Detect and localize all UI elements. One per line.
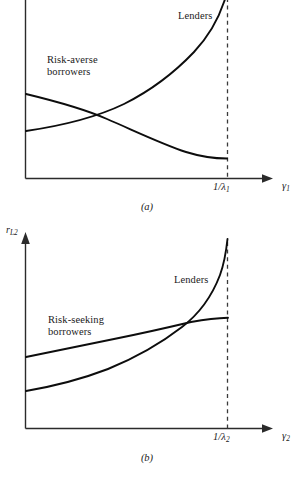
panel-b-x-axis-arrow	[262, 424, 273, 433]
panel-a-chart	[0, 0, 303, 220]
panel-b-x-axis-label: γ2	[282, 430, 290, 444]
panel-b-chart	[0, 220, 303, 477]
panel-a-x-axis-arrow	[262, 174, 273, 183]
panel-a-x-tick-sub: 1	[226, 185, 230, 194]
figure-container: Lenders Risk-averse borrowers 1/λ1 γ1 (a…	[0, 0, 303, 477]
panel-b-x-tick-sub: 2	[226, 435, 230, 444]
panel-b-borrowers-label-line1: Risk-seeking	[48, 314, 104, 326]
panel-b-caption: (b)	[127, 452, 167, 463]
panel-b-y-axis-sub: L2	[10, 228, 18, 237]
panel-b-y-axis-label: rL2	[6, 224, 18, 237]
panel-b-x-tick-label: 1/λ2	[213, 431, 230, 445]
panel-b-y-axis-arrow	[21, 232, 30, 244]
panel-a-x-axis-sub: 1	[286, 184, 290, 193]
panel-b-lenders-label: Lenders	[174, 274, 209, 286]
panel-a-borrowers-label-line1: Risk-averse	[47, 54, 98, 66]
panel-a-borrowers-label-line2: borrowers	[47, 66, 90, 78]
panel-a-caption: (a)	[127, 201, 167, 212]
panel-b-borrowers-label-line2: borrowers	[48, 326, 91, 338]
panel-b-x-axis-sub: 2	[286, 434, 290, 443]
panel-a-x-axis-label: γ1	[282, 180, 290, 194]
panel-a-lenders-label: Lenders	[178, 10, 213, 22]
panel-a-x-tick-base: 1/λ	[213, 181, 226, 192]
panel-b-x-tick-base: 1/λ	[213, 431, 226, 442]
panel-a-x-tick-label: 1/λ1	[213, 181, 230, 195]
